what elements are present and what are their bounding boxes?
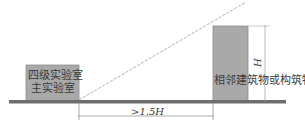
left-building-label: 四级实验室 主实验室 <box>28 69 78 95</box>
left-building-label-line2: 主实验室 <box>28 82 78 95</box>
right-building-block <box>213 26 248 101</box>
ground-line <box>9 100 286 104</box>
right-building-label: 相邻建筑物或构筑物 <box>214 74 305 87</box>
height-label: H <box>251 58 264 67</box>
left-building-label-line1: 四级实验室 <box>28 69 78 82</box>
distance-label: >1.5H <box>131 105 164 118</box>
